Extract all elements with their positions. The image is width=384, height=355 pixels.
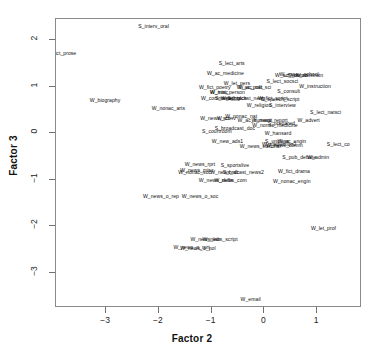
x-tick-mark (263, 307, 264, 313)
data-point-label: W_ac_medicine (207, 71, 244, 77)
y-tick-label: −2 (29, 212, 39, 236)
y-tick-label: 1 (29, 73, 39, 97)
data-point-label: W_news_o_rep (143, 194, 179, 200)
data-point-label: W_news_com (214, 178, 247, 184)
data-point-label: S_lect_arts (219, 61, 245, 67)
plot-panel: S_interv_oralfict_proseW_biographyS_lect… (55, 18, 361, 307)
x-tick-mark (316, 307, 317, 313)
factor-scatter-plot: Factor 3 Factor 2 210−1−2−3 −3−2−101 S_i… (0, 0, 384, 355)
data-point-label: W_nonac_engin (273, 179, 310, 185)
data-point-label: S_courtroom (202, 129, 232, 135)
x-tick-label: 0 (252, 315, 274, 325)
x-tick-label: −1 (200, 315, 222, 325)
data-point-label: fict_prose (55, 51, 76, 57)
x-tick-mark (211, 307, 212, 313)
data-point-label: W_news_o_soc (182, 194, 219, 200)
data-point-label: W_new_ads1 (212, 139, 243, 145)
data-point-label: W_instruction (299, 84, 331, 90)
x-tick-label: −2 (147, 315, 169, 325)
data-point-label: W_let_prof (311, 226, 336, 232)
y-tick-label: 2 (29, 26, 39, 50)
data-point-label: W_nonac_arts (152, 106, 185, 112)
data-point-label: W_news_script (202, 238, 237, 244)
data-point-label: W_email (241, 297, 261, 303)
data-point-label: S_demonstratn (288, 74, 323, 80)
x-tick-label: −3 (94, 315, 116, 325)
data-point-label: W_religion (247, 103, 272, 109)
data-point-label: W_admin (307, 156, 329, 162)
data-point-label: S_interview (269, 103, 296, 109)
x-tick-label: 1 (305, 315, 327, 325)
data-point-label: S_lect_co (327, 143, 350, 149)
data-point-label: W_advert (298, 118, 320, 124)
data-point-label: W_nonac_medicine (252, 123, 298, 129)
data-point-label: W_nonac_soc (178, 170, 211, 176)
x-tick-mark (105, 307, 106, 313)
data-point-label: S_sportslive (221, 163, 249, 169)
data-point-label: W_fict_drama (278, 170, 310, 176)
data-point-label: W_hansard (265, 131, 292, 137)
data-point-label: W_news_o_pol (180, 246, 215, 252)
data-point-label: S_lect_socsci (266, 79, 298, 85)
x-axis-title: Factor 2 (0, 333, 384, 344)
data-point-label: S_brdcast_news2 (223, 170, 264, 176)
data-point-label: W_news_editorial (240, 144, 281, 150)
data-point-label: S_lect_natsci (310, 110, 341, 116)
y-axis-title: Factor 3 (8, 116, 19, 196)
y-tick-label: 0 (29, 119, 39, 143)
y-tick-label: −1 (29, 166, 39, 190)
x-tick-mark (158, 307, 159, 313)
data-point-label: W_biography (90, 98, 121, 104)
y-tick-label: −3 (29, 259, 39, 283)
data-point-label: S_interv_oral (138, 24, 169, 30)
